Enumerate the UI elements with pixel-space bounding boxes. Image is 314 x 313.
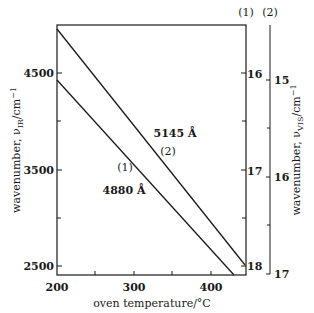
y-tick-label: 2500 <box>23 260 54 273</box>
right-axis-1-tick-label: 16 <box>247 68 263 81</box>
series-2-number-label: (2) <box>160 145 176 158</box>
right-axis-2-tick-label: 17 <box>274 268 289 281</box>
plot-frame <box>57 25 246 275</box>
right-axis-1-ticks <box>241 73 246 266</box>
series-line-2 <box>57 29 245 265</box>
right-axis-1-tick-label: 17 <box>247 165 262 178</box>
right-axis-2-ticks <box>266 80 270 274</box>
y-axis-title: wavenumber, νIR/cm−1 <box>9 87 25 213</box>
series-2-wavelength-label: 5145 Å <box>154 126 197 140</box>
y-tick-label: 3500 <box>23 164 54 177</box>
right-axis-2-tick-label: 15 <box>274 74 289 87</box>
series-line-1 <box>57 80 234 275</box>
x-axis-title: oven temperature/°C <box>93 297 211 310</box>
x-tick-label: 400 <box>200 281 223 294</box>
right-axis-2-tick-label: 16 <box>274 171 290 184</box>
y-axis-ticks <box>57 73 62 266</box>
x-tick-label: 200 <box>46 281 69 294</box>
right-axis-1-tick-label: 18 <box>247 260 263 273</box>
series-1-wavelength-label: 4880 Å <box>103 183 146 197</box>
y-tick-label: 4500 <box>23 67 54 80</box>
x-axis-ticks <box>95 271 211 275</box>
x-tick-label: 300 <box>123 281 146 294</box>
series-1-number-label: (1) <box>117 161 133 174</box>
y2-axis-title: wavenumber, νVIS/cm−1 <box>289 84 305 215</box>
right-axis-2-header: (2) <box>262 6 278 19</box>
chart: 4500 3500 2500 200 300 400 oven temperat… <box>0 0 314 313</box>
right-axis-1-header: (1) <box>238 6 254 19</box>
